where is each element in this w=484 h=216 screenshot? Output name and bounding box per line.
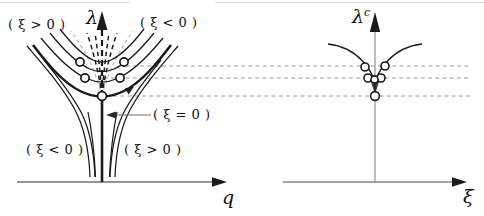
right-vertical-axis-label: λc <box>352 5 370 27</box>
region-label-bottom-left: ( ξ < 0 ) <box>26 142 84 157</box>
figure-vector-layer <box>0 0 484 216</box>
c-bottom <box>371 92 380 101</box>
right-vertical-axis-base: λ <box>352 5 364 27</box>
left-horizontal-axis-label: q <box>222 186 234 208</box>
region-label-critical: ( ξ = 0 ) <box>153 107 211 122</box>
c-upper-right <box>381 62 389 70</box>
node-upper-right <box>120 58 128 66</box>
right-vertical-axis-superscript: c <box>364 6 370 19</box>
left-panel-group <box>17 11 227 187</box>
dashed-level-lines <box>104 66 470 96</box>
c-upper-left <box>361 63 369 71</box>
region-label-top-right: ( ξ < 0 ) <box>140 15 198 30</box>
right-horizontal-axis-label: ξ <box>463 185 473 207</box>
c-center <box>371 76 378 83</box>
region-label-bottom-right: ( ξ > 0 ) <box>124 142 182 157</box>
left-vertical-axis-label: λ <box>86 6 98 28</box>
node-lower-left <box>81 74 89 82</box>
figure-canvas: λ q ( ξ > 0 ) ( ξ < 0 ) ( ξ < 0 ) ( ξ > … <box>0 0 484 216</box>
node-lower-right <box>116 74 124 82</box>
region-label-top-left: ( ξ > 0 ) <box>8 17 66 32</box>
node-upper-left <box>76 58 84 66</box>
right-panel-group <box>283 12 467 187</box>
node-origin <box>98 92 107 101</box>
q-axis <box>17 177 227 187</box>
